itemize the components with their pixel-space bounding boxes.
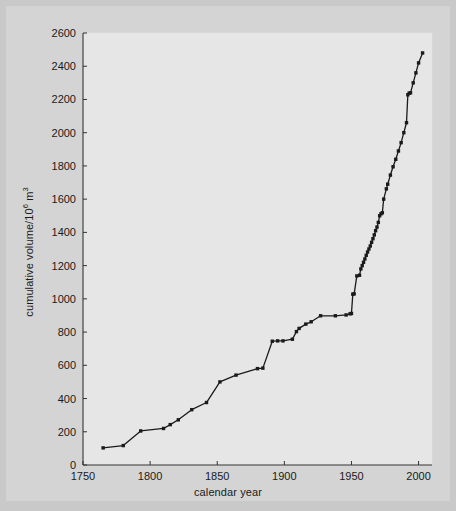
data-point-marker bbox=[397, 149, 400, 152]
x-axis-title: calendar year bbox=[0, 486, 456, 498]
y-tick-label: 2000 bbox=[52, 127, 76, 139]
data-point-marker bbox=[281, 339, 284, 342]
data-point-marker bbox=[234, 373, 237, 376]
y-axis-title-wrapper: cumulative volume/106 m3 bbox=[19, 132, 37, 372]
data-point-marker bbox=[375, 225, 378, 228]
y-tick-label: 2200 bbox=[52, 93, 76, 105]
data-point-marker bbox=[205, 401, 208, 404]
data-point-marker bbox=[139, 429, 142, 432]
data-point-marker bbox=[414, 71, 417, 74]
data-point-marker bbox=[374, 229, 377, 232]
y-tick-label: 400 bbox=[58, 393, 76, 405]
data-point-marker bbox=[412, 81, 415, 84]
data-point-marker bbox=[417, 61, 420, 64]
data-point-marker bbox=[373, 233, 376, 236]
y-tick-label: 1400 bbox=[52, 226, 76, 238]
data-point-marker bbox=[319, 314, 322, 317]
line-chart: 0200400600800100012001400160018002000220… bbox=[6, 6, 450, 501]
data-point-marker bbox=[256, 367, 259, 370]
y-axis-title: cumulative volume/106 m3 bbox=[23, 187, 35, 316]
x-tick-label: 1950 bbox=[339, 470, 363, 482]
data-point-marker bbox=[421, 51, 424, 54]
data-point-marker bbox=[190, 408, 193, 411]
data-point-marker bbox=[358, 274, 361, 277]
y-tick-label: 2600 bbox=[52, 27, 76, 39]
data-point-marker bbox=[261, 366, 264, 369]
data-point-marker bbox=[367, 247, 370, 250]
y-axis-title-unit-exponent: 3 bbox=[21, 187, 30, 191]
data-point-marker bbox=[370, 241, 373, 244]
y-tick-label: 1800 bbox=[52, 160, 76, 172]
data-point-marker bbox=[271, 340, 274, 343]
data-point-marker bbox=[382, 197, 385, 200]
x-tick-label: 1750 bbox=[71, 470, 95, 482]
data-point-marker bbox=[218, 380, 221, 383]
data-point-marker bbox=[101, 446, 104, 449]
data-point-marker bbox=[363, 257, 366, 260]
figure-canvas: 0200400600800100012001400160018002000220… bbox=[0, 0, 456, 511]
data-point-marker bbox=[309, 320, 312, 323]
data-point-marker bbox=[177, 418, 180, 421]
data-point-marker bbox=[304, 322, 307, 325]
y-tick-label: 600 bbox=[58, 359, 76, 371]
data-point-marker bbox=[385, 187, 388, 190]
y-tick-label: 1200 bbox=[52, 260, 76, 272]
data-point-marker bbox=[394, 158, 397, 161]
series-line bbox=[103, 53, 422, 448]
data-point-marker bbox=[371, 237, 374, 240]
data-point-marker bbox=[409, 91, 412, 94]
x-tick-label: 1850 bbox=[205, 470, 229, 482]
data-point-marker bbox=[386, 183, 389, 186]
y-tick-label: 2400 bbox=[52, 60, 76, 72]
data-point-marker bbox=[344, 313, 347, 316]
data-point-marker bbox=[369, 244, 372, 247]
y-tick-label: 200 bbox=[58, 426, 76, 438]
data-point-marker bbox=[381, 211, 384, 214]
y-axis-title-main: cumulative volume/10 bbox=[23, 208, 35, 316]
x-tick-label: 1900 bbox=[272, 470, 296, 482]
data-point-marker bbox=[377, 221, 380, 224]
data-point-marker bbox=[276, 339, 279, 342]
data-point-marker bbox=[365, 254, 368, 257]
data-point-marker bbox=[366, 250, 369, 253]
data-point-marker bbox=[297, 327, 300, 330]
data-point-marker bbox=[405, 121, 408, 124]
y-axis-title-exponent: 6 bbox=[21, 204, 30, 208]
data-point-marker bbox=[391, 165, 394, 168]
y-tick-label: 1600 bbox=[52, 193, 76, 205]
data-point-marker bbox=[169, 423, 172, 426]
data-point-marker bbox=[389, 173, 392, 176]
data-point-marker bbox=[162, 427, 165, 430]
data-point-marker bbox=[402, 131, 405, 134]
data-point-marker bbox=[350, 312, 353, 315]
y-axis-title-unit: m bbox=[23, 192, 35, 204]
data-point-marker bbox=[334, 314, 337, 317]
data-point-marker bbox=[362, 261, 365, 264]
data-point-marker bbox=[352, 292, 355, 295]
x-tick-label: 2000 bbox=[406, 470, 430, 482]
data-point-marker bbox=[295, 330, 298, 333]
data-point-marker bbox=[361, 264, 364, 267]
data-point-marker bbox=[122, 444, 125, 447]
figure-inner-background: 0200400600800100012001400160018002000220… bbox=[6, 6, 450, 501]
data-point-marker bbox=[399, 141, 402, 144]
data-point-marker bbox=[359, 267, 362, 270]
y-tick-label: 800 bbox=[58, 326, 76, 338]
y-tick-label: 1000 bbox=[52, 293, 76, 305]
data-point-marker bbox=[291, 338, 294, 341]
x-tick-label: 1800 bbox=[138, 470, 162, 482]
